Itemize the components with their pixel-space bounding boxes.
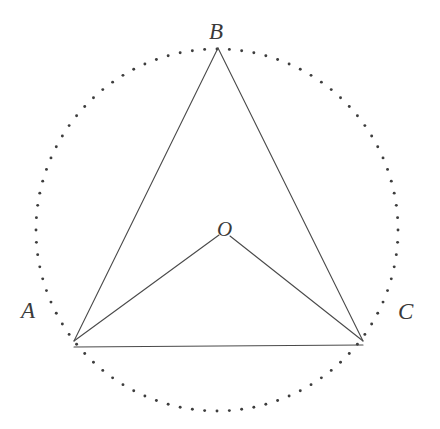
circle-dot [38, 265, 41, 268]
circle-dot [216, 410, 219, 413]
circle-dot [167, 403, 170, 406]
circle-dot [288, 395, 291, 398]
circle-dot [167, 54, 170, 57]
circle-dot [339, 361, 342, 364]
circle-dot [111, 81, 114, 84]
circle-dot [83, 105, 86, 108]
circle-dot [83, 352, 86, 355]
circle-dot [386, 168, 389, 171]
circle-dot [396, 216, 399, 219]
circle-dot [36, 204, 39, 207]
circle-dot [395, 253, 398, 256]
circle-dot [92, 96, 95, 99]
circle-dot [299, 68, 302, 71]
segment-ao [74, 235, 219, 341]
circle-dot [390, 277, 393, 280]
circle-dot [35, 241, 38, 244]
circle-dot [61, 135, 64, 138]
circle-dot [132, 68, 135, 71]
circle-dot [339, 96, 342, 99]
circle-dot [38, 192, 41, 195]
segment-ac [74, 345, 363, 347]
circle-dot [288, 63, 291, 66]
segment-oc [230, 236, 363, 341]
circle-dot [179, 51, 182, 54]
circle-dot [61, 323, 64, 326]
circle-dot [252, 406, 255, 409]
circle-dot [330, 369, 333, 372]
circle-dot [143, 63, 146, 66]
circle-dot [396, 241, 399, 244]
circle-dot [122, 74, 125, 77]
circle-dot [310, 383, 313, 386]
point-label-b: B [209, 20, 223, 43]
circle-dot [252, 51, 255, 54]
circle-dot [376, 312, 379, 315]
circle-dot [41, 277, 44, 280]
circle-dot [55, 145, 58, 148]
circle-dot [203, 48, 206, 51]
circle-dot [101, 88, 104, 91]
circle-dot [240, 49, 243, 52]
circle-dot [393, 192, 396, 195]
circle-dot [276, 58, 279, 61]
circle-dot [191, 408, 194, 411]
geometry-canvas [0, 0, 440, 429]
circle-dot [50, 301, 53, 304]
circle-dot [36, 253, 39, 256]
circle-dot [348, 352, 351, 355]
geometry-figure: A B C O [0, 0, 440, 429]
point-label-c: C [398, 300, 413, 323]
circle-dot [363, 333, 366, 336]
circle-dot [155, 58, 158, 61]
circle-dot [363, 124, 366, 127]
circle-dot [310, 74, 313, 77]
circle-dot [228, 409, 231, 412]
circle-dot [397, 229, 400, 232]
circle-dot [203, 409, 206, 412]
circle-dot [228, 48, 231, 51]
circle-dot [240, 408, 243, 411]
circle-dot [370, 323, 373, 326]
point-label-a: A [21, 299, 35, 322]
circle-dot [382, 301, 385, 304]
circle-dot [348, 105, 351, 108]
circle-dot [68, 124, 71, 127]
circle-dot [179, 406, 182, 409]
circle-dot [390, 180, 393, 183]
circle-dot [299, 389, 302, 392]
circle-dot [276, 399, 279, 402]
circle-dot [111, 376, 114, 379]
circle-dot [45, 168, 48, 171]
circle-dot [395, 204, 398, 207]
circle-dot [55, 312, 58, 315]
circle-dot [264, 54, 267, 57]
circle-dot [191, 49, 194, 52]
circle-dot [143, 395, 146, 398]
circle-dot [320, 81, 323, 84]
circle-dot [41, 180, 44, 183]
segment-ab [74, 48, 218, 341]
circle-dot [356, 114, 359, 117]
circle-dot [382, 156, 385, 159]
circle-dot [35, 216, 38, 219]
circle-dot [68, 333, 71, 336]
circle-dot [50, 156, 53, 159]
circle-dot [330, 88, 333, 91]
circle-dot [264, 403, 267, 406]
circle-dot [75, 343, 78, 346]
circle-dot [75, 114, 78, 117]
circle-dot [155, 399, 158, 402]
circle-dot [122, 383, 125, 386]
circle-dot [393, 265, 396, 268]
circle-dot [320, 376, 323, 379]
circle-dot [370, 135, 373, 138]
circle-dot [132, 389, 135, 392]
circle-dot [92, 361, 95, 364]
circle-dot [35, 229, 38, 232]
circle-dot [45, 289, 48, 292]
circle-dot [386, 289, 389, 292]
triangle-segments [74, 48, 363, 347]
segment-bc [218, 48, 363, 341]
point-label-o: O [217, 219, 232, 240]
